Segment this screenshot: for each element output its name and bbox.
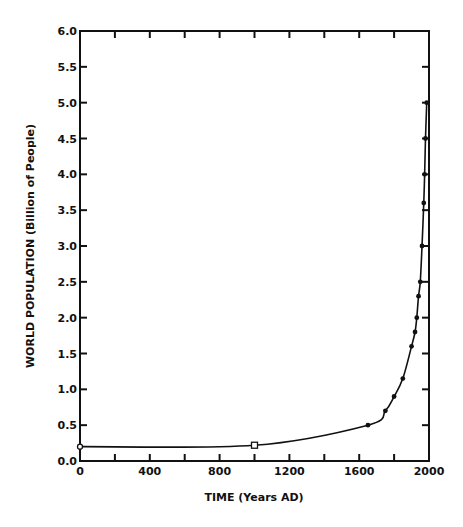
- population-chart: 0.00.51.01.52.02.53.03.54.04.55.05.56.0 …: [0, 0, 463, 527]
- data-point: [252, 442, 258, 448]
- data-point: [421, 201, 426, 206]
- x-tick-label: 2000: [414, 465, 445, 478]
- data-point: [418, 279, 423, 284]
- data-point: [383, 408, 388, 413]
- data-point: [420, 244, 425, 249]
- data-point: [423, 136, 428, 141]
- y-tick-label: 3.0: [58, 240, 78, 253]
- y-tick-label: 0.0: [58, 455, 78, 468]
- data-point: [392, 394, 397, 399]
- x-tick-label: 1600: [344, 465, 375, 478]
- x-tick-label: 0: [76, 465, 84, 478]
- data-point: [414, 315, 419, 320]
- x-axis-title: TIME (Years AD): [204, 491, 303, 504]
- data-point: [416, 294, 421, 299]
- y-tick-label: 5.0: [58, 97, 78, 110]
- data-point: [409, 344, 414, 349]
- plot-frame: [80, 31, 429, 461]
- data-point: [413, 330, 418, 335]
- x-axis: 0400800120016002000: [76, 31, 444, 478]
- y-tick-label: 1.0: [58, 383, 78, 396]
- y-tick-label: 6.0: [58, 25, 78, 38]
- x-tick-label: 1200: [274, 465, 305, 478]
- x-tick-label: 800: [208, 465, 231, 478]
- y-tick-label: 4.0: [58, 168, 78, 181]
- y-tick-label: 1.5: [58, 348, 78, 361]
- y-tick-label: 5.5: [58, 61, 78, 74]
- data-point: [366, 423, 371, 428]
- y-tick-label: 0.5: [58, 419, 78, 432]
- data-point: [422, 172, 427, 177]
- data-point: [78, 444, 83, 449]
- y-tick-label: 4.5: [58, 133, 78, 146]
- population-curve: [80, 103, 427, 448]
- y-tick-label: 2.0: [58, 312, 78, 325]
- data-markers: [78, 100, 430, 449]
- y-axis-title: WORLD POPULATION (Billion of People): [24, 124, 37, 368]
- x-tick-label: 400: [138, 465, 161, 478]
- y-tick-label: 2.5: [58, 276, 78, 289]
- data-point: [424, 100, 429, 105]
- y-axis: 0.00.51.01.52.02.53.03.54.04.55.05.56.0: [58, 25, 430, 468]
- y-tick-label: 3.5: [58, 204, 78, 217]
- data-point: [400, 376, 405, 381]
